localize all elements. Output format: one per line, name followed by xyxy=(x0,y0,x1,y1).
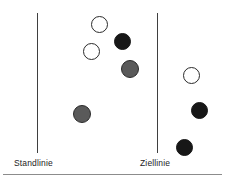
ziellinie-line xyxy=(157,13,158,153)
scatter-figure: StandlinieZiellinie xyxy=(0,0,225,183)
token-white xyxy=(91,16,108,33)
token-gray xyxy=(121,60,139,78)
token-white xyxy=(183,67,200,84)
token-gray xyxy=(73,105,91,123)
label-start-line: Standlinie xyxy=(14,158,53,168)
label-target-line: Ziellinie xyxy=(140,158,170,168)
bottom-baseline xyxy=(3,174,222,175)
token-black xyxy=(176,139,193,156)
standlinie-line xyxy=(37,13,38,153)
token-white xyxy=(83,43,100,60)
token-black xyxy=(114,33,131,50)
token-black xyxy=(191,102,208,119)
